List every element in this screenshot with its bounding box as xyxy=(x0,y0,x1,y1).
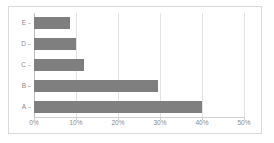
bar-row xyxy=(34,80,244,92)
bar-D xyxy=(34,38,76,50)
bar-row xyxy=(34,38,244,50)
x-axis-tick xyxy=(202,117,203,120)
x-axis-label-10: 10% xyxy=(69,120,82,127)
x-axis-label-30: 30% xyxy=(153,120,166,127)
x-axis-labels: 0%10%20%30%40%50% xyxy=(34,120,245,132)
x-axis-label-50: 50% xyxy=(237,120,250,127)
x-axis-tick xyxy=(76,117,77,120)
y-axis-tick xyxy=(28,23,31,24)
y-axis-label-C: C xyxy=(21,62,26,69)
y-axis-label-E: E xyxy=(22,20,26,27)
x-axis-line xyxy=(34,117,245,118)
bar-E xyxy=(34,17,70,29)
bar-A xyxy=(34,101,202,113)
x-axis-tick xyxy=(160,117,161,120)
y-axis-tick xyxy=(28,107,31,108)
x-axis-label-20: 20% xyxy=(111,120,124,127)
y-axis-label-A: A xyxy=(22,103,26,110)
gridline-50 xyxy=(244,13,245,117)
y-axis-labels: EDCBA xyxy=(0,13,31,117)
x-axis-label-0: 0% xyxy=(29,120,38,127)
y-axis-tick xyxy=(28,44,31,45)
bar-row xyxy=(34,101,244,113)
x-axis-tick xyxy=(118,117,119,120)
y-axis-label-D: D xyxy=(21,41,26,48)
x-axis-tick xyxy=(244,117,245,120)
y-axis-tick xyxy=(28,65,31,66)
y-axis-label-B: B xyxy=(22,83,26,90)
bar-row xyxy=(34,59,244,71)
bar-chart: EDCBA 0%10%20%30%40%50% xyxy=(0,0,274,143)
plot-area xyxy=(34,13,244,117)
bar-row xyxy=(34,17,244,29)
y-axis-tick xyxy=(28,86,31,87)
bar-B xyxy=(34,80,158,92)
x-axis-label-40: 40% xyxy=(195,120,208,127)
x-axis-tick xyxy=(34,117,35,120)
bar-C xyxy=(34,59,84,71)
